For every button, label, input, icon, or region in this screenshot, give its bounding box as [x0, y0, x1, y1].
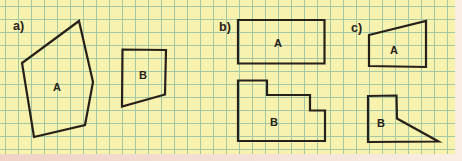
- worksheet-panel: a) b) c) ABABAB: [0, 0, 462, 161]
- graph-paper-grid: [0, 0, 455, 154]
